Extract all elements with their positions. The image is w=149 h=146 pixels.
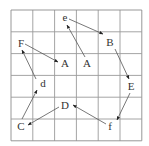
point-label-f: f	[108, 120, 112, 132]
grid	[11, 10, 142, 141]
point-label-c: C	[17, 120, 24, 132]
arrow-f-to-d	[73, 105, 106, 124]
point-label-b: B	[106, 36, 113, 48]
arrow-f-to-a1	[25, 44, 58, 62]
arrow-c-to-d	[22, 90, 37, 119]
arrow-d-to-f	[22, 50, 36, 79]
point-label-d: D	[61, 99, 69, 111]
grid-arrow-diagram: eBFAAdEDCf	[0, 0, 149, 146]
point-label-a2: A	[83, 57, 91, 69]
point-label-e: e	[63, 11, 68, 23]
point-label-e: E	[128, 80, 135, 92]
point-label-a1: A	[61, 57, 69, 69]
point-label-f: F	[18, 37, 24, 49]
point-label-d: d	[40, 77, 46, 89]
